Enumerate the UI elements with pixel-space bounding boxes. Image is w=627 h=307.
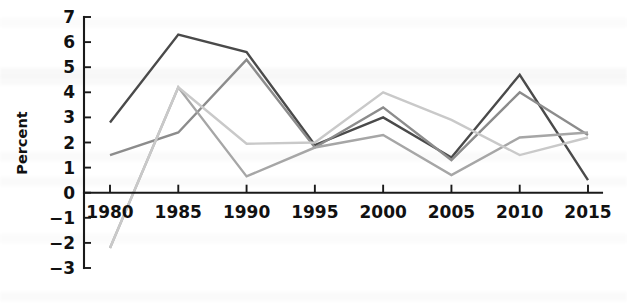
series-line-1 — [110, 35, 588, 181]
y-tick-label: 6 — [63, 32, 75, 52]
x-tick-label: 2005 — [428, 202, 475, 222]
x-tick-label: 2015 — [564, 202, 611, 222]
series-line-4 — [110, 87, 588, 248]
y-tick-label: 4 — [63, 82, 75, 102]
x-tick-label: 1990 — [223, 202, 270, 222]
series-line-3 — [110, 87, 588, 248]
plot-area: 76543210−1−2−319801985199019952000200520… — [0, 0, 627, 307]
tick-label-layer: 76543210−1−2−319801985199019952000200520… — [49, 7, 612, 278]
y-tick-label: −3 — [49, 258, 75, 278]
y-tick-label: 5 — [63, 57, 75, 77]
line-chart: 76543210−1−2−319801985199019952000200520… — [0, 0, 627, 307]
x-tick-label: 1985 — [155, 202, 202, 222]
y-tick-label: 7 — [63, 7, 75, 27]
y-axis-title: Percent — [14, 111, 30, 174]
y-tick-label: 0 — [63, 183, 75, 203]
x-tick-label: 1995 — [291, 202, 338, 222]
y-tick-label: 1 — [63, 158, 75, 178]
series-line-2 — [110, 60, 588, 160]
x-tick-label: 2000 — [359, 202, 406, 222]
x-tick-label: 2010 — [496, 202, 543, 222]
y-tick-label: 2 — [63, 133, 75, 153]
y-tick-label: −1 — [49, 208, 75, 228]
y-tick-label: −2 — [49, 233, 75, 253]
x-tick-label: 1980 — [86, 202, 133, 222]
y-tick-label: 3 — [63, 107, 75, 127]
